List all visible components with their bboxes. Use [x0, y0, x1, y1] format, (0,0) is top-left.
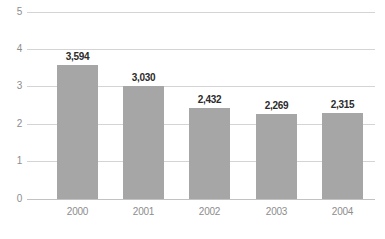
data-label-2001: 3,030 — [119, 72, 168, 83]
x-axis-tick-2001: 2001 — [119, 206, 168, 217]
bar-chart: 5 4 3 2 1 0 3,594 3,030 2,432 2,269 2,31… — [0, 0, 385, 239]
y-axis-tick-5: 5 — [8, 7, 22, 17]
data-label-2003: 2,269 — [252, 100, 301, 111]
data-label-2000: 3,594 — [53, 51, 102, 62]
y-axis-tick-4: 4 — [8, 44, 22, 54]
bar-2001 — [123, 86, 164, 199]
axis-baseline — [27, 199, 375, 200]
x-axis-tick-2003: 2003 — [252, 206, 301, 217]
bar-2000 — [57, 65, 98, 199]
bar-2002 — [189, 108, 230, 199]
x-axis-tick-2002: 2002 — [185, 206, 234, 217]
y-axis-tick-0: 0 — [8, 194, 22, 204]
data-label-2002: 2,432 — [185, 94, 234, 105]
data-label-2004: 2,315 — [318, 99, 367, 110]
y-axis-tick-1: 1 — [8, 156, 22, 166]
bar-2003 — [256, 114, 297, 199]
y-axis-tick-3: 3 — [8, 81, 22, 91]
x-axis-tick-2000: 2000 — [53, 206, 102, 217]
x-axis-tick-2004: 2004 — [318, 206, 367, 217]
gridline-4 — [27, 49, 375, 50]
bar-2004 — [322, 113, 363, 199]
gridline-5 — [27, 12, 375, 13]
y-axis-tick-2: 2 — [8, 119, 22, 129]
